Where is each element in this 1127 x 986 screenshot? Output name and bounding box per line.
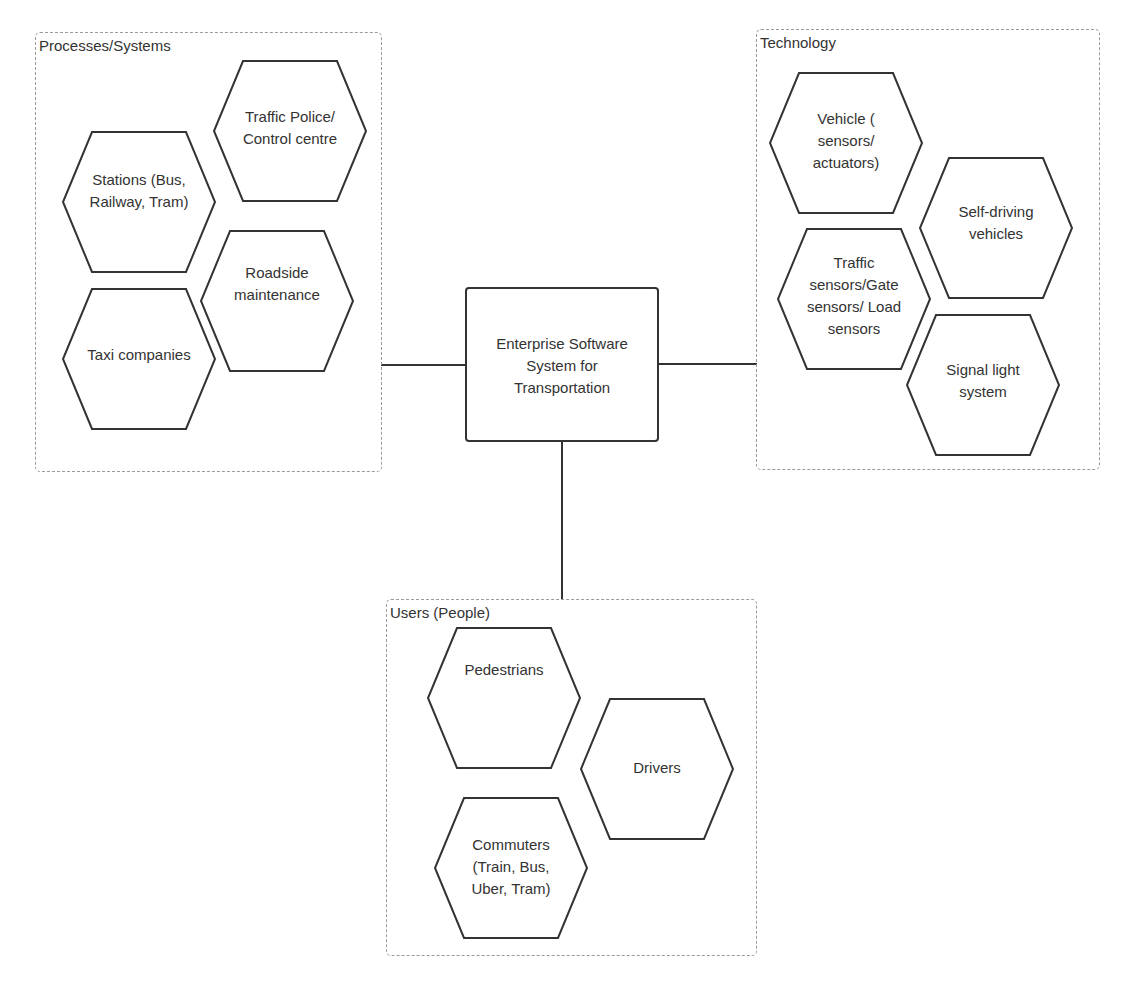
- hex-stations[interactable]: Stations (Bus, Railway, Tram): [62, 131, 216, 273]
- enterprise-system-node[interactable]: Enterprise Software System for Transport…: [465, 287, 659, 442]
- group-title: Users (People): [390, 604, 490, 621]
- connector-technology: [659, 363, 757, 365]
- group-title: Processes/Systems: [39, 37, 171, 54]
- hex-roadside-maintenance[interactable]: Roadside maintenance: [200, 230, 354, 372]
- hex-traffic-police[interactable]: Traffic Police/ Control centre: [213, 60, 367, 202]
- hex-drivers[interactable]: Drivers: [580, 698, 734, 840]
- enterprise-system-label: Enterprise Software System for Transport…: [496, 333, 628, 399]
- connector-processes: [381, 364, 465, 366]
- hex-label: Vehicle ( sensors/ actuators): [769, 72, 923, 214]
- hex-pedestrians[interactable]: Pedestrians: [427, 627, 581, 769]
- hex-label: Self-driving vehicles: [919, 157, 1073, 299]
- hex-label: Signal light system: [906, 314, 1060, 456]
- hex-label: Pedestrians: [427, 627, 581, 769]
- hex-label: Commuters (Train, Bus, Uber, Tram): [434, 797, 588, 939]
- hex-vehicle-sensors[interactable]: Vehicle ( sensors/ actuators): [769, 72, 923, 214]
- hex-label: Stations (Bus, Railway, Tram): [62, 131, 216, 273]
- hex-label: Taxi companies: [62, 288, 216, 430]
- connector-users: [561, 442, 563, 599]
- hex-commuters[interactable]: Commuters (Train, Bus, Uber, Tram): [434, 797, 588, 939]
- hex-signal-light-system[interactable]: Signal light system: [906, 314, 1060, 456]
- hex-self-driving-vehicles[interactable]: Self-driving vehicles: [919, 157, 1073, 299]
- hex-taxi-companies[interactable]: Taxi companies: [62, 288, 216, 430]
- group-title: Technology: [760, 34, 836, 51]
- hex-label: Traffic Police/ Control centre: [213, 60, 367, 202]
- hex-label: Drivers: [580, 698, 734, 840]
- hex-label: Roadside maintenance: [200, 230, 354, 372]
